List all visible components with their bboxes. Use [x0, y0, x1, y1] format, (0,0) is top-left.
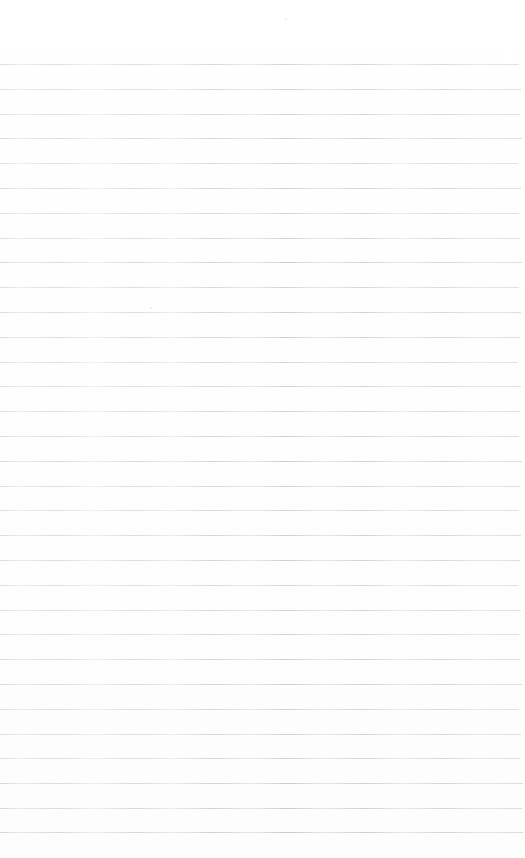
- writing-area[interactable]: [0, 0, 525, 858]
- notebook-page: [0, 0, 525, 858]
